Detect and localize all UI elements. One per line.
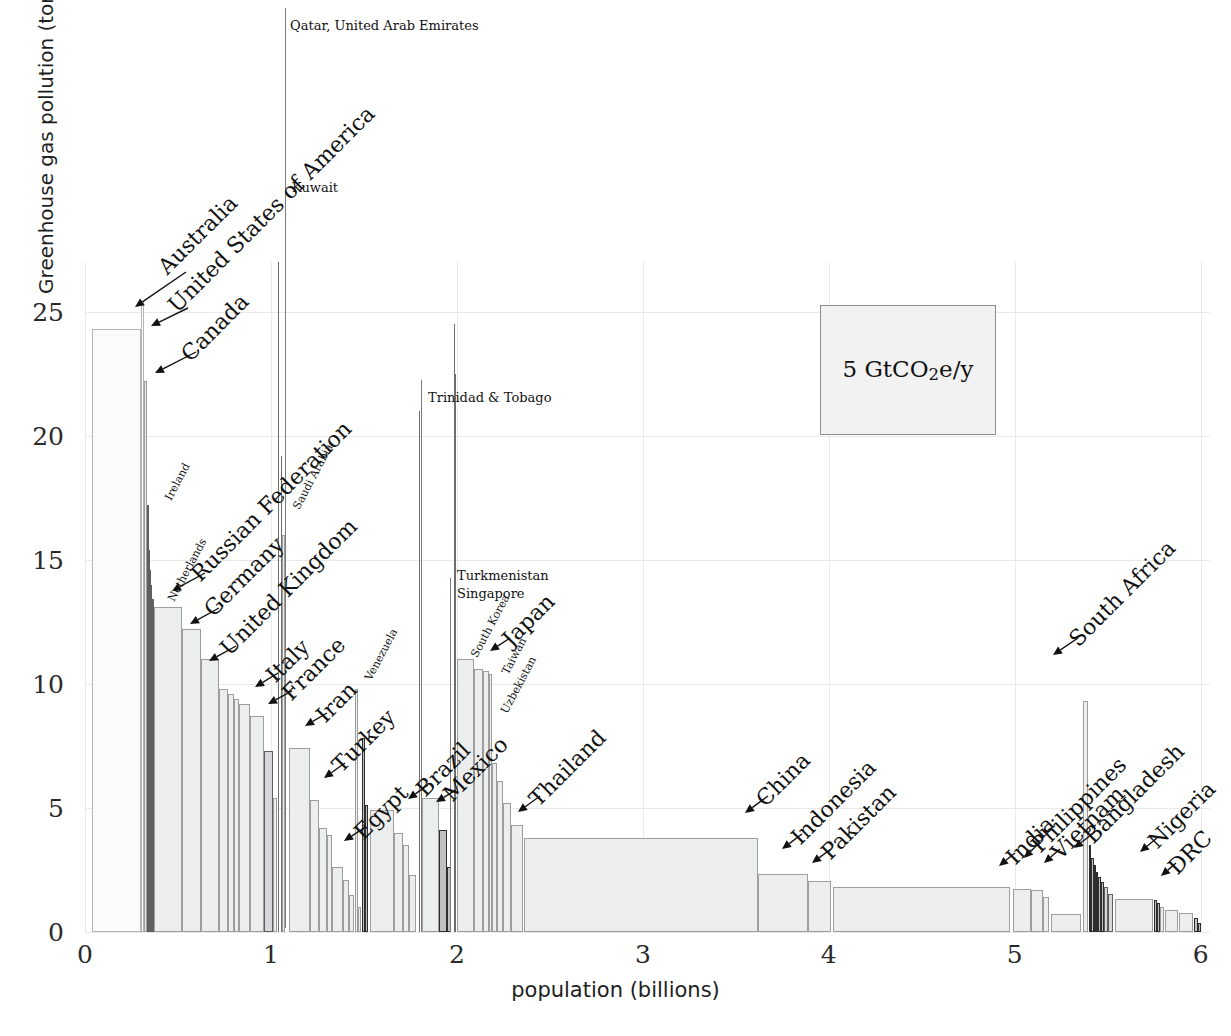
- bar-pakistan: [833, 887, 1011, 932]
- annotation-singapore: Singapore: [457, 586, 525, 601]
- bar-philippines: [1031, 890, 1043, 932]
- bar-drc: [1179, 913, 1193, 932]
- bar-australia: [92, 329, 140, 932]
- bar-unlabeled-33: [394, 833, 403, 932]
- y-axis-title-pre: Greenhouse gas pollution (tons CO: [34, 0, 58, 294]
- bar-unlabeled-25: [332, 867, 343, 932]
- x-tick-label: 3: [635, 940, 651, 969]
- x-tick-label: 6: [1193, 940, 1209, 969]
- y-axis-title: Greenhouse gas pollution (tons CO2e/y pe…: [34, 0, 59, 318]
- gridline-horizontal: [85, 312, 1210, 313]
- bar-thailand: [511, 825, 523, 932]
- x-tick-label: 5: [1007, 940, 1023, 969]
- bar-south-korea: [474, 669, 483, 932]
- y-tick-label: 0: [18, 918, 64, 947]
- bar-indonesia: [808, 881, 830, 932]
- x-tick-label: 4: [821, 940, 837, 969]
- bar-russian-federation: [154, 607, 182, 932]
- legend-unit-sub: 2: [929, 365, 940, 384]
- bar-india: [1013, 889, 1031, 932]
- gridline-vertical: [643, 262, 644, 932]
- annotation-turkmenistan: Turkmenistan: [457, 568, 549, 583]
- gridline-horizontal: [85, 932, 1210, 933]
- bar-france: [250, 716, 263, 932]
- annotation-trinidad: Trinidad & Tobago: [428, 390, 552, 405]
- x-axis-title: population (billions): [0, 978, 1231, 1002]
- bar-japan: [483, 671, 490, 932]
- bar-unlabeled-66: [1108, 894, 1114, 932]
- bar-germany: [182, 629, 202, 932]
- bar-unlabeled-16: [264, 751, 273, 932]
- bar-unlabeled-22: [310, 800, 319, 932]
- bar-unlabeled-38: [439, 830, 446, 932]
- y-tick-label: 10: [18, 669, 64, 698]
- y-tick-label: 5: [18, 793, 64, 822]
- legend-value: 5: [843, 356, 858, 382]
- gridline-horizontal: [85, 684, 1210, 685]
- bar-brazil: [422, 798, 440, 932]
- y-tick-label: 15: [18, 545, 64, 574]
- bar-unlabeled-35: [409, 875, 416, 932]
- legend-label: 5 GtCO2e/y: [821, 356, 995, 385]
- bar-unlabeled-56: [1043, 897, 1050, 932]
- bar-venezuela: [355, 689, 358, 932]
- chart-canvas: 0510152025 0123456 Greenhouse gas pollut…: [0, 0, 1231, 1036]
- gridline-vertical: [1015, 262, 1016, 932]
- bar-unlabeled-11: [219, 689, 228, 932]
- bar-unlabeled-48: [503, 803, 510, 932]
- bar-bangladesh: [1115, 899, 1153, 933]
- leader-line-trinidad: [421, 380, 422, 932]
- bar-united-kingdom: [201, 659, 219, 932]
- bar-unlabeled-17: [273, 798, 277, 932]
- legend-unit-post: e/y: [939, 356, 973, 382]
- annotation-qatar-uae: Qatar, United Arab Emirates: [290, 18, 479, 33]
- bar-unlabeled-74: [1198, 923, 1201, 932]
- bar-unlabeled-27: [349, 895, 354, 932]
- bar-nigeria: [1165, 910, 1178, 932]
- bar-iran: [289, 748, 310, 932]
- bar-unlabeled-29: [358, 907, 360, 932]
- gridline-horizontal: [85, 436, 1210, 437]
- x-tick-label: 1: [263, 940, 279, 969]
- bar-china: [524, 838, 758, 932]
- y-tick-label: 20: [18, 421, 64, 450]
- legend-area-key: 5 GtCO2e/y: [820, 305, 996, 435]
- bar-unlabeled-70: [1160, 907, 1164, 932]
- bar-unlabeled-23: [319, 828, 326, 932]
- legend-unit-pre: GtCO: [864, 356, 928, 382]
- bar-vietnam: [1051, 914, 1081, 932]
- bar-italy: [239, 704, 251, 932]
- bar-unlabeled-51: [758, 874, 808, 932]
- x-tick-label: 0: [77, 940, 93, 969]
- x-tick-label: 2: [449, 940, 465, 969]
- gridline-vertical: [85, 262, 86, 932]
- bar-trinidad-tobago: [419, 411, 420, 932]
